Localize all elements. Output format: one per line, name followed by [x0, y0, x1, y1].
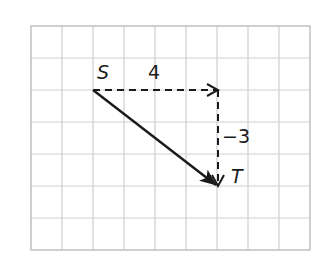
vector-diagram: S 4 −3 T — [0, 0, 332, 268]
point-s-label: S — [97, 61, 109, 83]
horizontal-magnitude-label: 4 — [148, 61, 160, 83]
grid — [31, 26, 310, 250]
grid-border — [31, 26, 310, 250]
vertical-magnitude-label: −3 — [222, 125, 250, 147]
point-t-label: T — [231, 165, 244, 187]
